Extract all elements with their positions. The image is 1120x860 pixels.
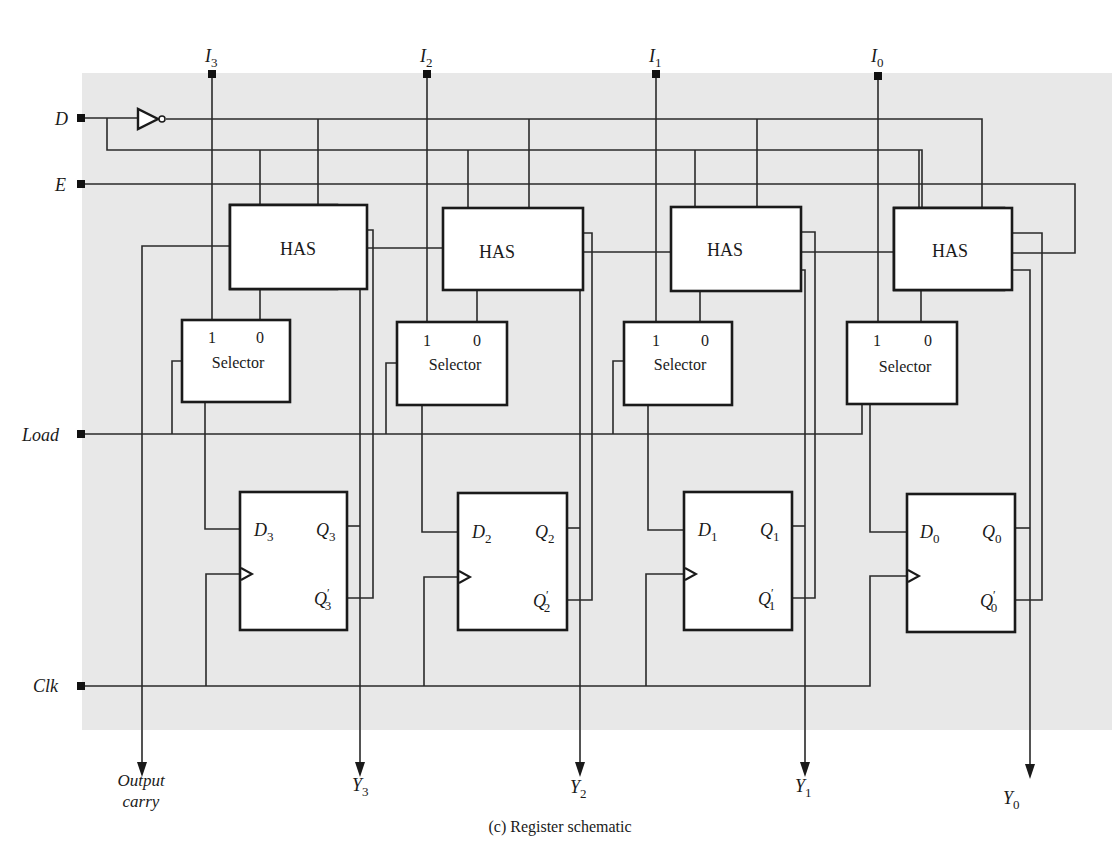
- flipflop-2: [458, 493, 567, 630]
- pin-clk: [77, 682, 85, 690]
- selector-in0-0: 0: [924, 332, 932, 349]
- pin-i1: [652, 70, 660, 78]
- register-schematic: D E Load Clk I3 I2 I1 I0: [0, 0, 1120, 860]
- selector-in1-1: 1: [652, 332, 660, 349]
- pin-d: [77, 114, 85, 122]
- input-load: Load: [21, 425, 85, 445]
- has-label-2: HAS: [479, 242, 515, 262]
- arrow-y1: [800, 762, 810, 777]
- output-carry-label-line1: Output: [117, 771, 166, 790]
- ff-qn-label-1: Q′1: [758, 586, 775, 613]
- input-label-e: E: [54, 175, 66, 195]
- selector-label-3: Selector: [212, 354, 265, 371]
- flipflop-1: [684, 492, 792, 630]
- selector-in0-1: 0: [701, 332, 709, 349]
- selector-label-2: Selector: [429, 356, 482, 373]
- pin-load: [77, 430, 85, 438]
- selector-in0-3: 0: [256, 329, 264, 346]
- selector-in1-2: 1: [423, 332, 431, 349]
- pin-i0: [874, 72, 882, 80]
- input-label-clk: Clk: [33, 676, 59, 696]
- selector-in1-3: 1: [208, 329, 216, 346]
- arrow-y2: [575, 762, 585, 777]
- pin-i3: [208, 70, 216, 78]
- selector-in1-0: 1: [873, 332, 881, 349]
- pin-i2: [423, 70, 431, 78]
- ff-qn-label-2: Q′2: [533, 588, 550, 615]
- has-label-3: HAS: [280, 239, 316, 259]
- input-clk: Clk: [33, 676, 85, 696]
- output-label-y1: Y1: [795, 776, 812, 800]
- output-arrows: [137, 762, 1035, 779]
- input-label-d: D: [54, 109, 68, 129]
- output-label-y0: Y0: [1003, 788, 1020, 812]
- has-label-0: HAS: [932, 241, 968, 261]
- output-label-y2: Y2: [570, 777, 587, 801]
- svg-text:I2: I2: [419, 46, 433, 70]
- input-label-load: Load: [21, 425, 60, 445]
- flipflop-0: [907, 494, 1015, 632]
- input-e: E: [54, 175, 85, 195]
- svg-text:I0: I0: [870, 46, 884, 70]
- output-carry-label-line2: carry: [123, 792, 160, 811]
- pin-e: [77, 180, 85, 188]
- ff-qn-label-3: Q′3: [314, 586, 331, 613]
- has-label-1: HAS: [707, 240, 743, 260]
- svg-text:I1: I1: [648, 46, 662, 70]
- selector-label-0: Selector: [879, 358, 932, 375]
- arrow-y0: [1025, 764, 1035, 779]
- svg-text:I3: I3: [204, 46, 218, 70]
- ff-qn-label-0: Q′0: [980, 588, 997, 615]
- input-d: D: [54, 109, 85, 129]
- figure-caption: (c) Register schematic: [0, 818, 1120, 836]
- selector-in0-2: 0: [473, 332, 481, 349]
- output-label-y3: Y3: [352, 775, 369, 799]
- selector-label-1: Selector: [654, 356, 707, 373]
